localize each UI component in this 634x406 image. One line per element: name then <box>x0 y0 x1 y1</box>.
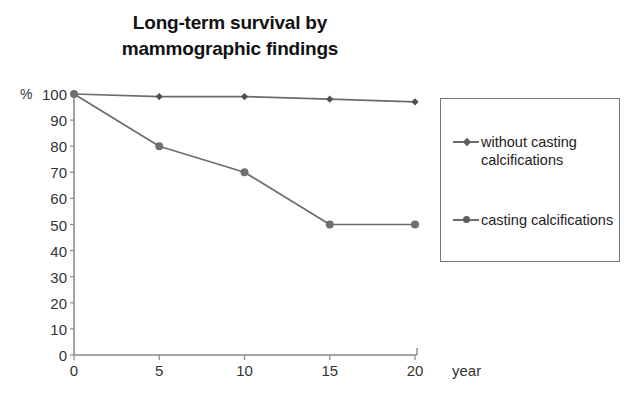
legend-label-casting: casting calcifications <box>481 211 613 229</box>
series-marker-0 <box>326 96 333 103</box>
series-marker-0 <box>241 93 248 100</box>
series-marker-0 <box>156 93 163 100</box>
legend-item-casting-calcifications[interactable]: casting calcifications <box>451 211 613 229</box>
series-marker-1 <box>70 90 78 98</box>
legend-marker-icon-without-casting <box>451 134 481 150</box>
legend-item-without-casting-calcifications[interactable]: without casting calcifications <box>451 133 577 169</box>
series-marker-1 <box>155 142 163 150</box>
legend-marker-icon-casting <box>451 212 481 228</box>
series-marker-1 <box>326 221 334 229</box>
chart-figure: Long-term survival by mammographic findi… <box>0 0 634 406</box>
series-marker-0 <box>411 98 418 105</box>
series-line-1 <box>74 94 415 225</box>
legend-label-without-casting: without casting calcifications <box>481 133 577 169</box>
series-marker-1 <box>241 168 249 176</box>
series-marker-1 <box>411 221 419 229</box>
chart-legend: without casting calcifications casting c… <box>440 98 620 262</box>
